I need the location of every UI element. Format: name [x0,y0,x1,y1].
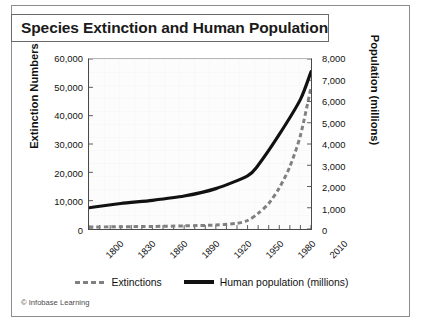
y-axis-left-ticks: 010,00020,00030,00040,00050,00060,000 [32,58,83,230]
x-axis-tick-label: 1980 [295,238,318,261]
legend-swatch-solid [184,280,214,283]
y-axis-right-tick-label: 2,000 [322,182,345,193]
chart-figure: Species Extinction and Human Population … [11,5,410,317]
chart-title-box: Species Extinction and Human Population [11,14,329,42]
legend-item: Extinctions [75,277,161,288]
y-axis-right-ticks: 01,0002,0003,0004,0005,0006,0007,0008,00… [322,58,370,230]
y-axis-right-tick-label: 4,000 [322,139,345,150]
x-axis-tick-label: 1830 [135,238,158,261]
copyright-credit: © Infobase Learning [21,298,90,307]
y-axis-right-title: Population (millions) [369,15,381,165]
x-axis-tick-label: 1890 [199,238,222,261]
plot-area [88,58,312,230]
y-axis-left-tick-label: 10,000 [54,196,83,207]
y-axis-right-tick-label: 0 [322,225,327,236]
y-axis-left-tick-label: 40,000 [54,110,83,121]
y-axis-left-tick-label: 20,000 [54,167,83,178]
legend-swatch-dashed [75,281,105,284]
page-title: Species Extinction and Human Population [21,19,328,37]
x-axis-tick-label: 1860 [167,238,190,261]
series-group [89,59,311,229]
x-axis-tick-label: 1950 [263,238,286,261]
series-line [89,72,311,208]
legend-item: Human population (millions) [184,277,349,288]
y-axis-right-tick-label: 1,000 [322,203,345,214]
y-axis-right-tick-label: 5,000 [322,117,345,128]
x-axis-tick-label: 1800 [103,238,126,261]
chart-legend: ExtinctionsHuman population (millions) [42,273,382,291]
legend-item-label: Human population (millions) [220,277,349,288]
y-axis-left-tick-label: 50,000 [54,81,83,92]
x-axis-ticks: 18001830186018901920195019802010 [88,232,312,266]
x-axis-tick-label: 1920 [231,238,254,261]
series-line [89,87,311,227]
chart-lines [89,59,311,229]
x-axis-tick-label: 2010 [327,238,350,261]
y-axis-right-tick-label: 8,000 [322,53,345,64]
y-axis-right-tick-label: 7,000 [322,74,345,85]
legend-item-label: Extinctions [111,277,161,288]
y-axis-right-tick-label: 3,000 [322,160,345,171]
y-axis-right-tick-label: 6,000 [322,96,345,107]
y-axis-left-tick-label: 30,000 [54,139,83,150]
y-axis-left-tick-label: 60,000 [54,53,83,64]
y-axis-left-tick-label: 0 [78,225,83,236]
